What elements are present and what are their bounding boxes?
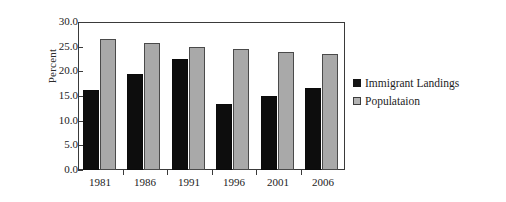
x-axis-tick-mark: [301, 170, 302, 175]
y-axis-tick-labels: 30.025.020.015.010.05.00.0: [24, 0, 78, 202]
bar-1991-immigrant-landings: [172, 59, 188, 170]
bar-2001-immigrant-landings: [261, 96, 277, 170]
bar-1981-immigrant-landings: [83, 90, 99, 170]
x-axis-tick-mark: [212, 170, 213, 175]
bar-1996-populataion: [233, 49, 249, 170]
bar-chart: Percent 30.025.020.015.010.05.00.0 Immig…: [0, 0, 506, 202]
y-axis-tick-label: 25.0: [32, 41, 78, 52]
legend-swatch-icon: [353, 97, 361, 105]
y-axis-tick-mark: [78, 170, 83, 171]
y-axis-tick-label: 15.0: [32, 90, 78, 101]
x-axis-tick-mark: [256, 170, 257, 175]
legend-swatch-icon: [353, 79, 361, 87]
y-axis-tick-mark: [78, 47, 83, 48]
bar-2006-immigrant-landings: [305, 88, 321, 170]
legend-item-immigrant-landings: Immigrant Landings: [353, 74, 503, 92]
y-axis-tick-mark: [78, 71, 83, 72]
legend-label: Immigrant Landings: [365, 77, 459, 90]
y-axis-tick-label: 0.0: [32, 164, 78, 175]
x-axis-tick-mark: [167, 170, 168, 175]
x-axis-label-2006: 2006: [293, 176, 353, 188]
y-axis-tick-label: 5.0: [32, 139, 78, 150]
bar-2006-populataion: [322, 54, 338, 170]
bar-1996-immigrant-landings: [216, 104, 232, 170]
bar-1991-populataion: [189, 47, 205, 170]
bar-1986-immigrant-landings: [127, 74, 143, 170]
y-axis-tick-label: 30.0: [32, 16, 78, 27]
bar-1981-populataion: [100, 39, 116, 170]
chart-legend: Immigrant LandingsPopulataion: [353, 74, 503, 110]
y-axis-tick-label: 20.0: [32, 65, 78, 76]
bar-1986-populataion: [144, 43, 160, 170]
x-axis-tick-mark: [123, 170, 124, 175]
legend-item-populataion: Populataion: [353, 92, 503, 110]
y-axis-tick-mark: [78, 22, 83, 23]
legend-label: Populataion: [365, 95, 420, 108]
y-axis-tick-label: 10.0: [32, 115, 78, 126]
bar-2001-populataion: [278, 52, 294, 170]
